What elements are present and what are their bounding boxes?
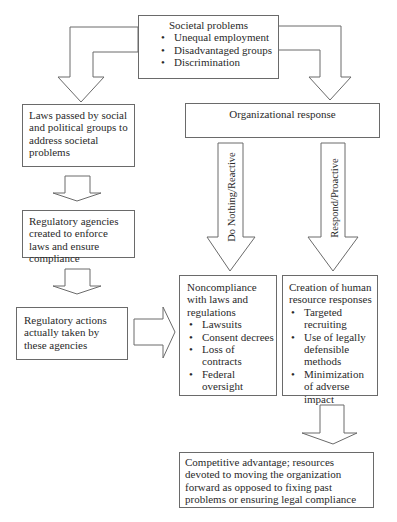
list-item: Disadvantaged groups (159, 44, 278, 56)
laws-box: Laws passed by social and political grou… (22, 104, 135, 167)
proactive-label: Respond/Proactive (329, 158, 340, 237)
list-item: Minimization of adverse impact (289, 368, 374, 405)
actions-box-text: Regulatory actions actually taken by the… (24, 314, 120, 351)
org-response-box: Organizational response (185, 103, 380, 138)
down-arrow-to-outcome (302, 405, 357, 444)
hr-responses-box: Creation of human resource responses Tar… (282, 275, 378, 396)
agencies-box: Regulatory agencies created to enforce l… (22, 210, 135, 258)
hr-box-title: Creation of human resource responses (289, 281, 374, 306)
right-arrow-actions-to-noncompliance (134, 307, 175, 358)
outcome-text: Competitive advantage; resources devoted… (185, 456, 368, 506)
noncompliance-box: Noncompliance with laws and regulations … (179, 275, 277, 396)
societal-problems-box: Societal problems Unequal employment Dis… (138, 15, 279, 79)
list-item: Use of legally defensible methods (289, 331, 366, 368)
list-item: Unequal employment (159, 31, 278, 43)
societal-problems-title: Societal problems (139, 19, 278, 31)
list-item: Lawsuits (187, 318, 272, 330)
bent-arrow-left (58, 27, 138, 102)
org-response-text: Organizational response (186, 108, 379, 120)
bent-arrow-right (278, 26, 351, 100)
actions-box: Regulatory actions actually taken by the… (16, 307, 128, 360)
reactive-label: Do Nothing/Reactive (226, 152, 237, 242)
list-item: Loss of contracts (187, 343, 242, 368)
list-item: Consent decrees (187, 331, 272, 343)
list-item: Discrimination (159, 56, 278, 68)
outcome-box: Competitive advantage; resources devoted… (179, 452, 374, 508)
noncompliance-title: Noncompliance with laws and regulations (187, 281, 272, 318)
down-arrow-agencies-to-actions (53, 269, 101, 294)
list-item: Federal oversight (187, 368, 242, 393)
down-arrow-laws-to-agencies (53, 176, 101, 201)
agencies-box-text: Regulatory agencies created to enforce l… (29, 215, 128, 265)
laws-box-text: Laws passed by social and political grou… (29, 109, 128, 159)
list-item: Targeted recruiting (289, 306, 352, 331)
